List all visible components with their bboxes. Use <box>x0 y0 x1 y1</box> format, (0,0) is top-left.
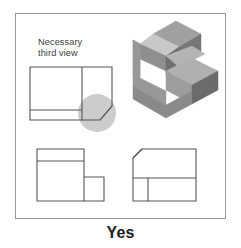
side-view-chamfer-line <box>133 149 142 158</box>
caption-yes: Yes <box>0 224 241 242</box>
side-view-outline <box>133 149 196 201</box>
orthographic-views-and-solid <box>0 0 241 248</box>
isometric-solid-object <box>133 21 218 118</box>
front-view-outline <box>37 149 104 201</box>
callout-circle <box>78 94 116 132</box>
view-bottom-left <box>37 149 104 201</box>
view-bottom-right <box>133 149 196 201</box>
figure-root: Necessary third view Yes <box>0 0 241 248</box>
